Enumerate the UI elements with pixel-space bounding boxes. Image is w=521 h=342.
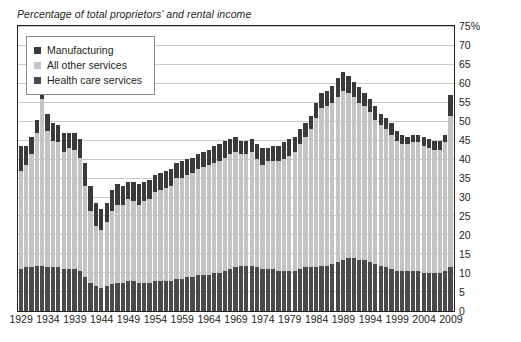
bar-segment [88, 211, 92, 283]
bar-segment [405, 271, 409, 311]
bar-segment [352, 258, 356, 311]
bar-segment [190, 277, 194, 311]
bar-segment [276, 161, 280, 271]
bar-segment [250, 152, 254, 266]
bar-segment [293, 271, 297, 311]
bar-1986 [325, 91, 329, 311]
y-axis-tick-label: 55 [459, 96, 471, 108]
bar-segment [293, 152, 297, 271]
bar-segment [379, 266, 383, 311]
bar-segment [190, 158, 194, 173]
bar-segment [276, 271, 280, 311]
bar-1994 [368, 99, 372, 311]
bar-segment [443, 271, 447, 311]
bar-segment [255, 144, 259, 159]
bar-1957 [169, 169, 173, 311]
bar-segment [201, 167, 205, 275]
bar-segment [260, 148, 264, 165]
bar-segment [352, 97, 356, 258]
y-axis-tick-label: 25 [459, 210, 471, 222]
bar-2009 [448, 95, 452, 311]
x-axis-tick-label: 1944 [90, 313, 113, 325]
y-axis-tick-label: 40 [459, 153, 471, 165]
bar-segment [137, 283, 141, 311]
bar-segment [233, 137, 237, 152]
bar-segment [142, 201, 146, 282]
bar-1966 [217, 144, 221, 311]
bar-segment [309, 267, 313, 311]
bar-segment [244, 154, 248, 266]
bar-segment [357, 260, 361, 311]
bar-1958 [174, 163, 178, 311]
bar-segment [395, 141, 399, 272]
bar-segment [223, 158, 227, 272]
bar-segment [99, 288, 103, 311]
bar-1988 [336, 78, 340, 311]
bar-segment [29, 154, 33, 268]
bar-segment [438, 141, 442, 150]
y-axis-tick-label: 10 [459, 267, 471, 279]
bar-1959 [180, 161, 184, 311]
bar-segment [298, 144, 302, 269]
bar-segment [341, 260, 345, 311]
bar-segment [67, 269, 71, 311]
bar-segment [83, 186, 87, 277]
bar-segment [147, 199, 151, 282]
bar-1984 [314, 103, 318, 311]
bar-1978 [282, 142, 286, 311]
bar-1980 [293, 137, 297, 311]
bar-segment [158, 190, 162, 281]
bar-segment [239, 154, 243, 266]
x-axis-labels: 1929193419391944194919541959196419691974… [0, 313, 521, 333]
x-axis-tick-label: 1954 [144, 313, 167, 325]
bar-segment [56, 267, 60, 311]
bar-segment [212, 163, 216, 273]
bar-segment [319, 266, 323, 311]
bar-segment [121, 205, 125, 283]
y-axis-tick-label: 5 [459, 286, 465, 298]
bar-segment [373, 120, 377, 264]
bar-1995 [373, 106, 377, 311]
bar-segment [271, 269, 275, 311]
x-axis-tick-label: 1949 [117, 313, 140, 325]
bar-segment [427, 273, 431, 311]
bar-segment [271, 146, 275, 161]
bar-1990 [346, 76, 350, 311]
x-axis-tick-label: 1979 [278, 313, 301, 325]
bar-segment [379, 125, 383, 265]
bar-segment [201, 152, 205, 167]
bar-1964 [207, 150, 211, 311]
bar-segment [319, 108, 323, 265]
bar-segment [282, 159, 286, 271]
bar-1981 [298, 129, 302, 311]
bar-segment [164, 171, 168, 188]
bar-1977 [276, 146, 280, 311]
bar-segment [336, 97, 340, 262]
bar-1941 [83, 163, 87, 311]
bar-1969 [233, 137, 237, 311]
bar-segment [416, 271, 420, 311]
y-axis-tick-label: 65 [459, 58, 471, 70]
bar-1974 [260, 148, 264, 311]
bar-segment [330, 103, 334, 264]
bar-2006 [432, 141, 436, 312]
bar-segment [303, 267, 307, 311]
bar-segment [357, 87, 361, 102]
bar-segment [309, 116, 313, 129]
bar-segment [395, 271, 399, 311]
bar-segment [88, 283, 92, 311]
bar-segment [19, 269, 23, 311]
bar-segment [325, 266, 329, 311]
bar-segment [153, 192, 157, 281]
x-axis-tick-label: 1939 [63, 313, 86, 325]
bar-segment [45, 267, 49, 311]
bar-1985 [319, 93, 323, 311]
bar-segment [389, 123, 393, 134]
bar-segment [137, 205, 141, 283]
bar-1989 [341, 72, 345, 311]
bar-segment [78, 158, 82, 272]
bar-segment [373, 264, 377, 311]
bar-segment [105, 222, 109, 286]
bar-segment [78, 271, 82, 311]
bar-segment [51, 141, 55, 268]
